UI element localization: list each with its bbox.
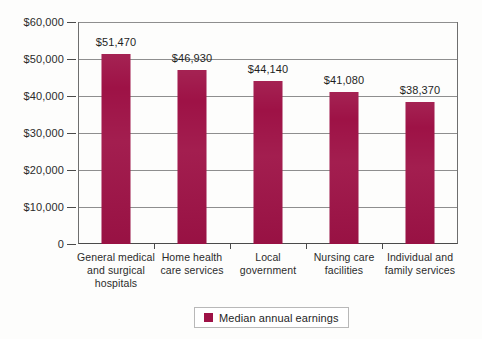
bar-slot: $41,080 [306,22,382,244]
x-axis-label-line: Individual and [377,251,463,264]
x-axis-label: Home health care services [149,251,235,277]
x-tick-mark [230,244,231,249]
x-axis-label-line: care services [149,264,235,277]
bar-chart: $60,000 $50,000 $40,000 $30,000 $20,000 … [0,0,482,339]
x-axis-label-line: General medical [73,251,159,264]
x-axis-label-line: Local [225,251,311,264]
bar-value-label: $38,370 [400,84,440,96]
x-tick-mark [154,244,155,249]
x-axis-ticks [78,244,458,250]
x-axis-label: Local government [225,251,311,277]
x-axis-label-line: family services [377,264,463,277]
y-tick-mark [67,133,76,134]
y-tick-mark [67,59,76,60]
bar-value-label: $44,140 [248,63,288,75]
bars-layer: $51,470 $46,930 $44,140 $41,080 $38,370 [78,22,458,244]
y-tick-mark [67,244,76,245]
bar[interactable] [330,92,359,244]
x-axis-label: Nursing care facilities [301,251,387,277]
y-tick-label: $50,000 [24,53,64,65]
x-axis-label-line: government [225,264,311,277]
bar[interactable] [254,81,283,244]
bar-value-label: $46,930 [172,52,212,64]
y-tick-label: $60,000 [24,16,64,28]
y-tick-mark [67,96,76,97]
bar-value-label: $41,080 [324,74,364,86]
x-axis-label-line: Nursing care [301,251,387,264]
chart-legend: Median annual earnings [194,307,349,328]
x-axis-label-line: Home health [149,251,235,264]
bar-slot: $38,370 [382,22,458,244]
x-axis-labels: General medical and surgical hospitals H… [78,251,458,297]
y-tick-label: $20,000 [24,164,64,176]
y-tick-label: $30,000 [24,127,64,139]
y-tick-mark [67,22,76,23]
bar-value-label: $51,470 [96,36,136,48]
legend-label: Median annual earnings [219,312,339,324]
x-axis-label: General medical and surgical hospitals [73,251,159,290]
legend-swatch-icon [204,313,213,322]
x-axis-label: Individual and family services [377,251,463,277]
bar-slot: $51,470 [78,22,154,244]
x-axis-label-line: and surgical [73,264,159,277]
x-axis-label-line: facilities [301,264,387,277]
x-tick-mark [382,244,383,249]
y-tick-label: $10,000 [24,201,64,213]
bar-slot: $46,930 [154,22,230,244]
y-tick-mark [67,207,76,208]
y-axis: $60,000 $50,000 $40,000 $30,000 $20,000 … [0,0,78,339]
y-tick-label: 0 [58,238,64,250]
y-tick-label: $40,000 [24,90,64,102]
bar[interactable] [406,102,435,244]
x-axis-label-line: hospitals [73,277,159,290]
x-tick-mark [306,244,307,249]
bar[interactable] [102,54,131,244]
y-tick-mark [67,170,76,171]
bar[interactable] [178,70,207,244]
bar-slot: $44,140 [230,22,306,244]
